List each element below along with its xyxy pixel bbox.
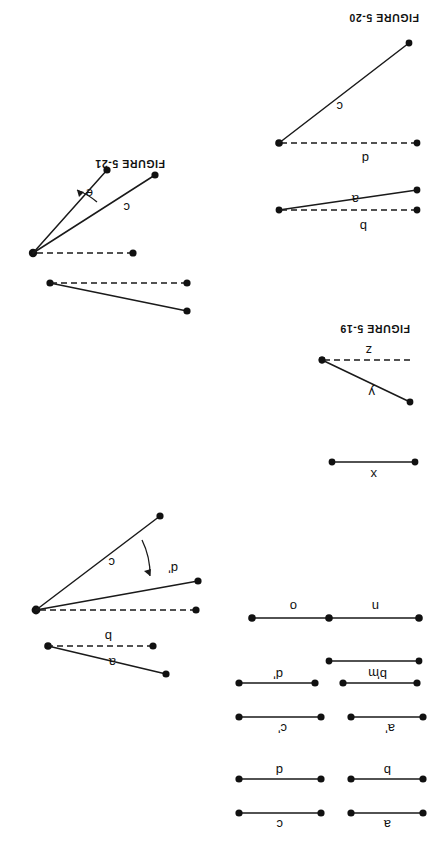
segment-group-plain-drawing: a c b d	[229, 765, 429, 829]
endpoint-dot	[183, 279, 190, 286]
angle-figure-unnumbered-drawing: a b d' c	[8, 488, 208, 688]
segment-c-line	[279, 43, 409, 143]
endpoint-dot	[347, 809, 354, 816]
endpoint-dot	[151, 171, 158, 178]
endpoint-dot	[415, 614, 423, 622]
endpoint-dot	[235, 679, 242, 686]
label-c: c	[336, 99, 343, 114]
label-b: b	[384, 763, 391, 778]
label-d: d	[276, 763, 283, 778]
segment-y-line	[322, 360, 410, 402]
segment-unlabeled-solid	[50, 283, 187, 311]
label-c: c	[123, 200, 130, 215]
endpoint-dot	[329, 459, 336, 466]
segment-a-line	[48, 646, 166, 674]
label-a: a	[108, 655, 116, 670]
figure-5-20-drawing: a b d c	[252, 18, 427, 218]
label-b-prime: b'	[377, 667, 387, 682]
endpoint-dot	[325, 614, 333, 622]
label-o: o	[290, 599, 297, 614]
endpoint-dot	[347, 775, 354, 782]
endpoint-dot	[414, 140, 421, 147]
endpoint-dot	[235, 809, 242, 816]
endpoint-dot	[192, 606, 199, 613]
figure-5-21-drawing: c e	[5, 165, 205, 325]
endpoint-dot	[347, 713, 354, 720]
label-z: z	[366, 343, 373, 358]
page-rotated-content: FIGURE 5-20 a b d c FIGURE 5-19	[0, 0, 433, 843]
endpoint-dot	[194, 577, 201, 584]
segment-a-line	[279, 190, 417, 210]
label-b: b	[360, 219, 367, 234]
endpoint-dot	[149, 642, 156, 649]
endpoint-dot	[248, 614, 256, 622]
endpoint-dot	[183, 307, 190, 314]
endpoint-dot	[414, 207, 421, 214]
endpoint-dot	[419, 713, 426, 720]
endpoint-dot	[419, 775, 426, 782]
label-c: c	[276, 817, 283, 832]
endpoint-dot	[103, 166, 110, 173]
label-a: a	[383, 817, 391, 832]
endpoint-dot	[406, 40, 413, 47]
scanned-page: FIGURE 5-20 a b d c FIGURE 5-19	[0, 0, 433, 843]
label-c-prime: c'	[278, 721, 287, 736]
label-a-prime: a'	[385, 721, 395, 736]
segment-group-mno-drawing: m n o	[237, 583, 427, 683]
label-b: b	[105, 629, 112, 644]
endpoint-dot	[235, 713, 242, 720]
endpoint-dot	[317, 713, 324, 720]
ray-e-line	[33, 170, 107, 253]
endpoint-dot	[407, 399, 414, 406]
figure-5-19-title: FIGURE 5-19	[340, 323, 410, 335]
endpoint-dot	[162, 670, 169, 677]
endpoint-dot	[326, 658, 333, 665]
angle-arrowhead	[144, 569, 151, 576]
ray-c-line	[33, 175, 155, 253]
label-n: n	[372, 599, 379, 614]
endpoint-dot	[413, 679, 420, 686]
endpoint-dot	[317, 809, 324, 816]
endpoint-dot	[414, 187, 421, 194]
label-y: y	[368, 385, 375, 400]
endpoint-dot	[235, 775, 242, 782]
endpoint-dot	[311, 679, 318, 686]
label-a: a	[351, 192, 359, 207]
segment-group-primed-drawing: a' c' b' d'	[229, 669, 429, 735]
label-d: d	[362, 151, 369, 166]
label-d-prime: d'	[273, 667, 283, 682]
endpoint-dot	[156, 512, 163, 519]
label-c: c	[108, 555, 115, 570]
endpoint-dot	[339, 679, 346, 686]
figure-5-19-drawing: x y z	[252, 335, 427, 480]
label-x: x	[370, 467, 377, 482]
endpoint-dot	[319, 357, 326, 364]
endpoint-dot	[129, 249, 136, 256]
ray-d-prime-line	[36, 581, 198, 610]
ray-c-line	[36, 516, 160, 610]
endpoint-dot	[416, 658, 423, 665]
endpoint-dot	[317, 775, 324, 782]
endpoint-dot	[419, 809, 426, 816]
label-d-prime: d'	[168, 561, 178, 576]
endpoint-dot	[412, 459, 419, 466]
